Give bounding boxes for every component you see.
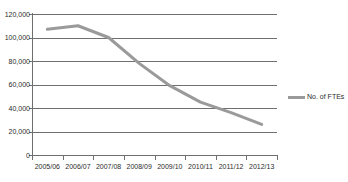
series-layer	[0, 0, 348, 182]
line-chart: 120,000100,00080,00060,00040,00020,0000 …	[0, 0, 348, 182]
chart-legend: No. of FTEs	[288, 93, 344, 101]
legend-label-no-of-ftes: No. of FTEs	[307, 93, 344, 101]
legend-swatch-no-of-ftes	[288, 96, 305, 99]
series-line-no-of-ftes	[47, 26, 261, 125]
